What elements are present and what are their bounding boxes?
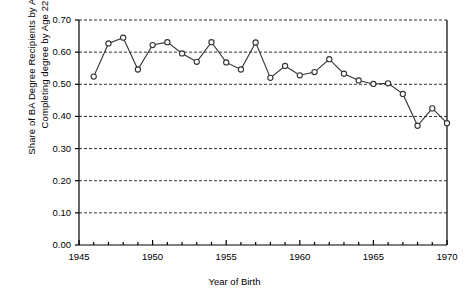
data-point-marker [165,40,170,45]
data-point-marker [268,75,273,80]
data-line [94,38,447,126]
data-point-marker [253,40,258,45]
data-point-marker [371,81,376,86]
data-point-marker [121,35,126,40]
data-point-marker [106,41,111,46]
data-point-marker [91,74,96,79]
data-point-marker [341,71,346,76]
data-point-marker [135,67,140,72]
chart-container: Share of BA Degree Recipients by Age 30 … [0,0,469,298]
data-point-marker [312,69,317,74]
data-point-marker [194,59,199,64]
data-point-marker [297,73,302,78]
data-point-marker [238,67,243,72]
data-point-marker [415,123,420,128]
line-chart-plot [0,0,469,298]
data-point-marker [444,121,449,126]
data-point-marker [150,42,155,47]
data-point-marker [209,40,214,45]
data-point-marker [179,51,184,56]
data-point-marker [327,57,332,62]
data-point-marker [430,106,435,111]
data-point-marker [282,63,287,68]
data-point-marker [400,91,405,96]
data-point-marker [386,81,391,86]
data-point-marker [356,78,361,83]
data-point-marker [224,60,229,65]
